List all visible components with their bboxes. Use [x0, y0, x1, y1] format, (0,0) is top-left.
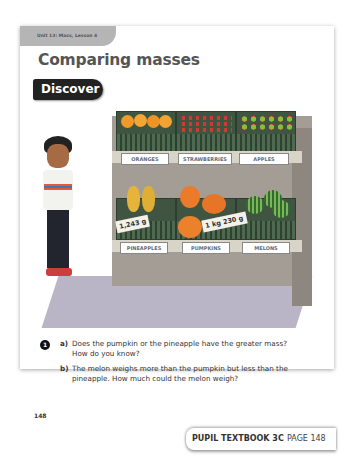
label-pineapples: PINEAPPLES	[120, 242, 168, 254]
apple-icon	[240, 115, 292, 132]
page-number: 148	[34, 412, 47, 419]
textbook-page: Unit 13: Mass, Lesson 4 Comparing masses…	[20, 26, 334, 369]
crate-strawberries	[176, 111, 236, 153]
question-a: a)	[60, 339, 68, 349]
face	[47, 144, 69, 168]
discover-badge: Discover	[33, 79, 103, 100]
page-title: Comparing masses	[38, 51, 200, 69]
market-stall-illustration: ORANGES STRAWBERRIES APPLES PINEAPPLES P…	[20, 106, 334, 336]
pumpkin-icon	[180, 186, 200, 208]
tshirt	[43, 170, 73, 210]
label-oranges: ORANGES	[121, 153, 169, 165]
discover-label: Discover	[41, 82, 99, 96]
label-pumpkins: PUMPKINS	[182, 242, 230, 254]
footer-tab: PUPIL TEXTBOOK 3C PAGE 148	[186, 428, 336, 450]
label-strawberries: STRAWBERRIES	[178, 153, 232, 165]
question-number-badge: 1	[40, 340, 50, 350]
question-b-text: The melon weighs more than the pumpkin b…	[72, 364, 322, 384]
crate-apples	[236, 111, 296, 153]
jeans	[47, 210, 69, 268]
melon-icon	[246, 196, 264, 214]
tshirt-stripes	[44, 184, 72, 190]
shoes	[46, 268, 72, 276]
strawberry-icon	[180, 115, 232, 132]
crate-oranges	[116, 111, 176, 153]
unit-tab: Unit 13: Mass, Lesson 4	[20, 26, 116, 46]
book-title: PUPIL TEXTBOOK 3C	[192, 434, 284, 443]
pineapple-icon	[127, 186, 140, 212]
label-apples: APPLES	[239, 153, 289, 165]
boy-character	[38, 136, 82, 286]
label-melons: MELONS	[242, 242, 290, 254]
unit-label: Unit 13: Mass, Lesson 4	[37, 33, 97, 38]
page-label: PAGE 148	[287, 434, 326, 443]
orange-icon	[121, 115, 134, 128]
question-b: b)	[60, 364, 68, 374]
question-a-text: Does the pumpkin or the pineapple have t…	[72, 339, 322, 359]
